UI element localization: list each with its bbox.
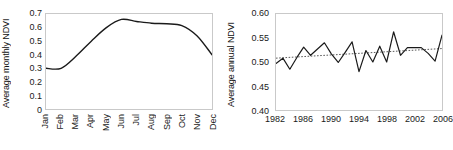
right-xtick-2006: 2006 <box>433 115 453 124</box>
left-xtick-mar: Mar <box>71 114 80 130</box>
left-y-axis-tick-labels: 0.7 0.6 0.5 0.4 0.3 0.2 0.1 0 <box>12 13 42 110</box>
right-xtick-2002: 2002 <box>405 115 425 124</box>
left-x-axis-tick-labels: JanFebMarAprMayJunJulAugSepOctNovDec <box>45 114 213 148</box>
right-xtick-1982: 1982 <box>265 115 285 124</box>
left-xtick-jan: Jan <box>41 114 50 129</box>
right-xtick-1990: 1990 <box>321 115 341 124</box>
annual-ndvi-line-series <box>276 14 442 110</box>
right-ytick-1: 0.55 <box>251 33 269 42</box>
annual-ndvi-line-path <box>276 32 442 72</box>
left-xtick-nov: Nov <box>193 114 202 130</box>
monthly-ndvi-chart-panel: Average monthly NDVI 0.7 0.6 0.5 0.4 0.3… <box>0 0 225 150</box>
left-xtick-dec: Dec <box>209 114 218 130</box>
left-y-axis-title: Average monthly NDVI <box>2 8 11 118</box>
left-ytick-0: 0.7 <box>29 9 42 18</box>
left-ytick-6: 0.1 <box>29 92 42 101</box>
left-xtick-oct: Oct <box>178 114 187 128</box>
left-ytick-3: 0.4 <box>29 50 42 59</box>
left-xtick-aug: Aug <box>147 114 156 130</box>
left-ytick-2: 0.5 <box>29 36 42 45</box>
right-xtick-1986: 1986 <box>293 115 313 124</box>
left-xtick-jun: Jun <box>117 114 126 129</box>
right-y-axis-tick-labels: 0.60 0.55 0.50 0.45 0.40 <box>239 13 269 111</box>
left-ytick-1: 0.6 <box>29 22 42 31</box>
monthly-ndvi-plot-area <box>45 13 213 110</box>
left-xtick-jul: Jul <box>132 114 141 126</box>
annual-ndvi-chart-panel: Average annual NDVI 0.60 0.55 0.50 0.45 … <box>225 0 449 150</box>
right-xtick-1994: 1994 <box>349 115 369 124</box>
monthly-ndvi-line-series <box>46 14 212 109</box>
monthly-ndvi-line-path <box>46 19 212 69</box>
annual-ndvi-plot-area <box>275 13 443 111</box>
left-ytick-4: 0.3 <box>29 64 42 73</box>
annual-ndvi-trendline-path <box>276 49 442 59</box>
left-xtick-apr: Apr <box>86 114 95 128</box>
right-xtick-1998: 1998 <box>377 115 397 124</box>
left-xtick-feb: Feb <box>56 114 65 130</box>
right-y-axis-title: Average annual NDVI <box>227 12 236 118</box>
left-xtick-sep: Sep <box>163 114 172 130</box>
right-ytick-3: 0.45 <box>251 82 269 91</box>
left-xtick-may: May <box>102 114 111 131</box>
left-ytick-5: 0.2 <box>29 78 42 87</box>
right-x-axis-tick-labels: 1982198619901994199820022006 <box>275 115 443 135</box>
right-ytick-0: 0.60 <box>251 9 269 18</box>
right-ytick-2: 0.50 <box>251 58 269 67</box>
